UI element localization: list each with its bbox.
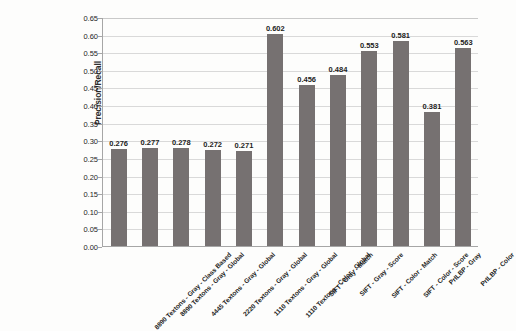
bar-slot <box>267 18 283 246</box>
y-axis-tick-label: 0.00 <box>70 243 98 252</box>
gridline <box>103 88 478 89</box>
bar-slot <box>111 18 127 246</box>
x-axis-label: PrILBP - Color <box>479 251 515 287</box>
y-axis-tick-label: 0.35 <box>70 119 98 128</box>
y-axis-tick-label: 0.45 <box>70 84 98 93</box>
bar[interactable] <box>361 51 377 246</box>
bar-value-label: 0.381 <box>416 102 447 111</box>
bar-value-label: 0.581 <box>385 31 416 40</box>
gridline <box>103 18 478 19</box>
y-axis-tick-label: 0.25 <box>70 154 98 163</box>
gridline <box>103 229 478 230</box>
bar-slot <box>299 18 315 246</box>
y-axis-tick-mark <box>98 247 102 248</box>
y-axis-tick-label: 0.30 <box>70 137 98 146</box>
y-axis-tick-label: 0.50 <box>70 66 98 75</box>
gridline <box>103 194 478 195</box>
bar-value-label: 0.272 <box>197 140 228 149</box>
x-axis-label: 8890 Textons - Gray - Class Based <box>153 251 233 331</box>
bar[interactable] <box>173 148 189 246</box>
bar-slot <box>424 18 440 246</box>
gridline <box>103 212 478 213</box>
y-axis-tick-label: 0.10 <box>70 207 98 216</box>
bar-slot <box>236 18 252 246</box>
bar-slot <box>173 18 189 246</box>
bar[interactable] <box>111 149 127 246</box>
gridline <box>103 71 478 72</box>
bar-slot <box>361 18 377 246</box>
bar-slot <box>205 18 221 246</box>
y-axis-tick-label: 0.15 <box>70 190 98 199</box>
bar-value-label: 0.563 <box>448 38 479 47</box>
bar[interactable] <box>205 150 221 246</box>
bar[interactable] <box>424 112 440 246</box>
bar-value-label: 0.271 <box>228 141 259 150</box>
bar-value-label: 0.278 <box>166 138 197 147</box>
bar[interactable] <box>236 151 252 246</box>
plot-area: 0.2760.2770.2780.2720.2710.6020.4560.484… <box>102 18 478 247</box>
bar[interactable] <box>267 34 283 246</box>
bar[interactable] <box>330 75 346 246</box>
bar[interactable] <box>455 48 471 246</box>
y-axis-tick-label: 0.55 <box>70 49 98 58</box>
gridline <box>103 177 478 178</box>
bar-slot <box>330 18 346 246</box>
y-axis-tick-label: 0.40 <box>70 102 98 111</box>
gridline <box>103 124 478 125</box>
bar-slot <box>142 18 158 246</box>
gridline <box>103 36 478 37</box>
bar-value-label: 0.553 <box>354 41 385 50</box>
x-axis-label: 2220 Textons - Gray - Global <box>241 251 308 318</box>
bar-value-label: 0.602 <box>260 24 291 33</box>
bar-value-label: 0.277 <box>134 138 165 147</box>
y-axis-tick-label: 0.60 <box>70 31 98 40</box>
bar[interactable] <box>393 41 409 246</box>
bar-value-label: 0.484 <box>322 65 353 74</box>
gridline <box>103 159 478 160</box>
y-axis-tick-label: 0.20 <box>70 172 98 181</box>
y-axis-tick-label: 0.05 <box>70 225 98 234</box>
gridline <box>103 53 478 54</box>
bar-value-label: 0.456 <box>291 75 322 84</box>
bar[interactable] <box>299 85 315 246</box>
bar-value-label: 0.276 <box>103 139 134 148</box>
bar-slot <box>393 18 409 246</box>
y-axis-tick-label: 0.65 <box>70 14 98 23</box>
bar[interactable] <box>142 148 158 246</box>
bar-slot <box>455 18 471 246</box>
x-axis-label: 8890 Textons - Gray - Global <box>179 251 246 318</box>
x-axis-label: 1110 Textons - Gray - Global <box>272 251 338 317</box>
